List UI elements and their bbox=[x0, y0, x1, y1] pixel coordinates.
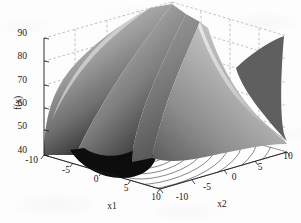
x1-tick-label: -5 bbox=[62, 166, 70, 176]
plot-canvas bbox=[0, 0, 301, 223]
x1-tick-label: 0 bbox=[94, 175, 99, 185]
x2-axis-title: x2 bbox=[217, 200, 227, 210]
z-axis-title: f(x) bbox=[14, 96, 24, 110]
x2-tick-label: 5 bbox=[258, 163, 263, 173]
x2-tick-label: 0 bbox=[232, 173, 237, 183]
x2-tick-label: -5 bbox=[203, 183, 211, 193]
x1-tick-label: -10 bbox=[25, 156, 38, 166]
x2-tick-label: -10 bbox=[176, 193, 189, 203]
z-tick-label: 50 bbox=[18, 122, 28, 132]
surface-plot-figure: 90 80 70 60 50 40 f(x) -10 -5 0 5 10 x1 … bbox=[0, 0, 301, 223]
z-tick-label: 90 bbox=[18, 29, 28, 39]
z-tick-label: 70 bbox=[18, 76, 28, 86]
x1-tick-label: 5 bbox=[124, 184, 129, 194]
x1-tick-label: 10 bbox=[151, 193, 161, 203]
x1-axis-title: x1 bbox=[107, 202, 117, 212]
z-tick-label: 80 bbox=[18, 52, 28, 62]
x2-tick-label: 10 bbox=[283, 152, 293, 162]
